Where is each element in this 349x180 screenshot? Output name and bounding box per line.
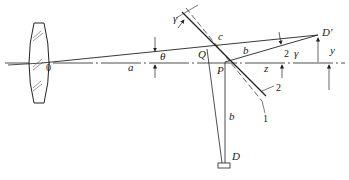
leader-1 — [262, 101, 265, 113]
label-gamma-top: γ — [173, 12, 178, 24]
gamma-arrow-top — [178, 20, 184, 28]
label-c: c — [218, 30, 223, 42]
label-line2: 2 — [276, 82, 281, 93]
label-line1: 1 — [263, 113, 268, 124]
ray-P-to-D-prime — [225, 35, 318, 62]
label-a: a — [128, 61, 134, 73]
label-b-lower: b — [229, 110, 235, 122]
leader-2 — [262, 86, 274, 91]
label-D-prime: D′ — [321, 26, 333, 38]
label-gamma-right: γ — [294, 47, 299, 59]
optical-diagram: 0 a θ Q P c b b z γ 2 γ D′ y D 2 1 — [0, 0, 349, 180]
detector-D — [218, 163, 230, 168]
gamma-ref-line — [176, 5, 198, 18]
label-b-upper: b — [243, 44, 249, 56]
two-gamma-arrow-top — [279, 32, 281, 44]
label-P: P — [216, 64, 224, 76]
label-D: D — [231, 150, 240, 162]
label-y: y — [329, 44, 335, 56]
label-origin: 0 — [46, 62, 51, 73]
label-z: z — [263, 62, 269, 74]
label-theta: θ — [160, 50, 166, 62]
label-Q: Q — [198, 48, 206, 60]
ray-to-D-prime — [42, 35, 318, 63]
label-two: 2 — [284, 48, 289, 59]
